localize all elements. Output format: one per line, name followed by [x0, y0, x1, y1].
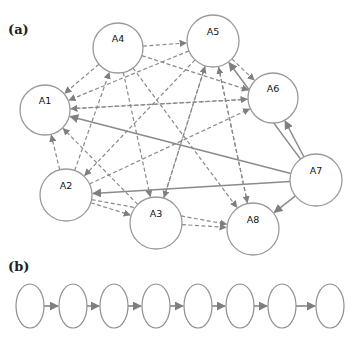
node-circle	[187, 15, 239, 67]
node-label: A8	[247, 214, 260, 225]
chain-node-4	[142, 284, 170, 328]
node-label: A4	[112, 33, 125, 44]
node-circle	[93, 23, 143, 73]
edge-a7-to-a1	[70, 117, 291, 174]
node-a6: A6	[248, 73, 298, 123]
node-a4: A4	[93, 23, 143, 73]
node-label: A2	[60, 180, 73, 191]
edge-a4-to-a5	[143, 43, 186, 46]
node-label: A1	[39, 95, 52, 106]
panel-b-label: (b)	[8, 259, 29, 274]
node-circle	[248, 73, 298, 123]
chain-node-1	[16, 284, 44, 328]
edge-a4-to-a8	[133, 68, 237, 207]
diagram-canvas: (a) A1A2A3A4A5A6A7A8 (b)	[0, 0, 357, 337]
edge-a5-to-a6	[232, 59, 254, 80]
edge-a4-to-a3	[123, 72, 150, 196]
chain-node-2	[59, 284, 87, 328]
node-a3: A3	[130, 197, 182, 249]
chain-node-6	[226, 284, 254, 328]
node-circle	[40, 169, 92, 221]
node-circle	[20, 85, 70, 135]
node-circle	[290, 154, 342, 206]
edge-a2-to-a6	[90, 109, 250, 184]
chain-node-7	[268, 284, 296, 328]
node-label: A6	[267, 83, 280, 94]
node-label: A3	[150, 208, 163, 219]
chain-node-5	[184, 284, 212, 328]
edge-a7-to-a8	[274, 196, 295, 212]
edge-a1-to-a6	[70, 99, 247, 108]
node-a5: A5	[187, 15, 239, 67]
node-circle	[227, 203, 279, 255]
node-label: A7	[310, 165, 323, 176]
edge-a3-to-a8	[182, 225, 226, 228]
node-circle	[130, 197, 182, 249]
edge-a4-to-a1	[65, 64, 99, 93]
edge-a2-to-a1	[51, 135, 60, 170]
edge-a5-to-a2	[85, 60, 195, 176]
node-a8: A8	[227, 203, 279, 255]
node-label: A5	[207, 26, 220, 37]
chain-node-8	[316, 284, 344, 328]
edge-a4-to-a6	[142, 56, 248, 90]
node-a2: A2	[40, 169, 92, 221]
edge-a7-to-a2	[93, 182, 290, 194]
panel-a-label: (a)	[8, 22, 29, 37]
chain-node-3	[100, 284, 128, 328]
graph-nodes: A1A2A3A4A5A6A7A8	[20, 15, 342, 255]
node-a1: A1	[20, 85, 70, 135]
node-a7: A7	[290, 154, 342, 206]
edge-a2-to-a3	[91, 203, 130, 215]
